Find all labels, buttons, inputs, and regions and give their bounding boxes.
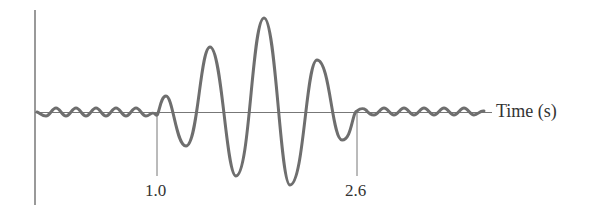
tick-label-2-6: 2.6	[345, 181, 366, 201]
time-axis-label: Time (s)	[496, 101, 557, 122]
waveform-curve	[37, 18, 484, 185]
tick-label-1-0: 1.0	[145, 181, 166, 201]
